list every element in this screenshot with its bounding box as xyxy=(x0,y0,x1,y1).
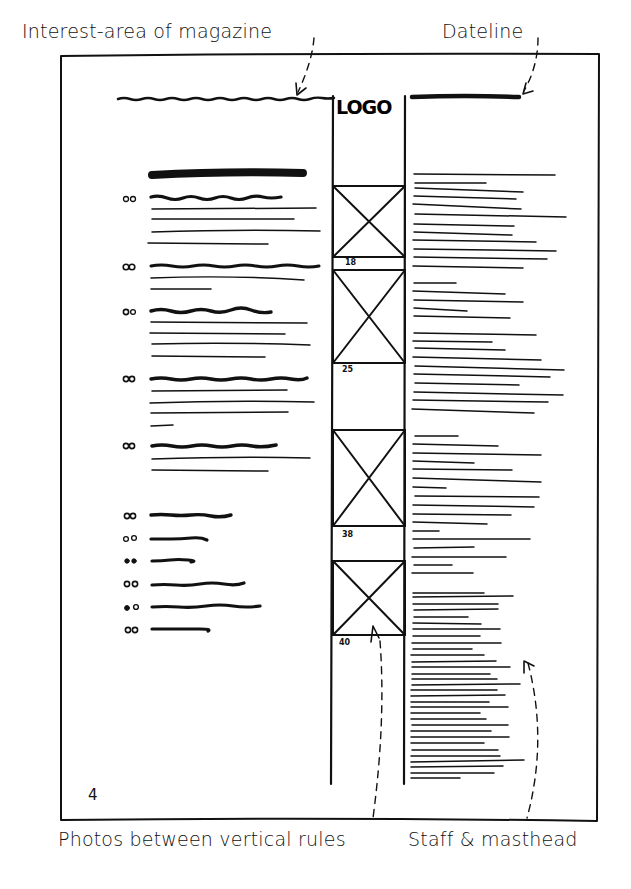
contents-entry xyxy=(124,581,244,586)
dateline-line xyxy=(412,96,519,97)
photo-page-ref: 38 xyxy=(342,530,353,539)
contents-entry xyxy=(123,443,310,471)
contents-entry xyxy=(124,196,321,244)
photo-page-ref: 25 xyxy=(342,365,353,374)
photo-page-ref: 18 xyxy=(345,258,356,267)
page-layout-sketch xyxy=(0,0,631,889)
contents-entry xyxy=(123,264,319,289)
staff-masthead-lines xyxy=(411,174,566,778)
contents-entry xyxy=(125,559,194,563)
page-folio: 4 xyxy=(88,786,98,804)
contents-entry xyxy=(125,627,209,632)
contents-entry xyxy=(125,605,260,611)
contents-headline xyxy=(152,172,303,175)
page-border xyxy=(61,54,599,821)
contents-entry xyxy=(124,513,231,518)
contents-entry xyxy=(123,376,314,426)
photo-page-ref: 40 xyxy=(339,638,350,647)
interest-area-line xyxy=(118,98,334,100)
logo-placeholder: LOGO xyxy=(336,96,391,118)
contents-entry xyxy=(124,536,207,542)
contents-entries xyxy=(123,196,320,632)
contents-entry xyxy=(123,308,310,357)
